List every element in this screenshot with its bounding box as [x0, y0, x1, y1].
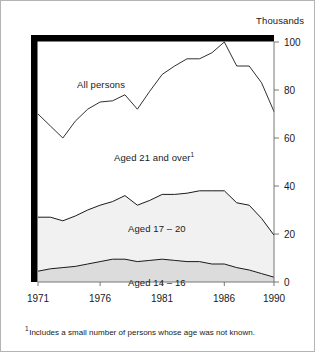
series-label-all-persons: All persons — [77, 79, 125, 90]
series-label-aged-17-20: Aged 17 – 20 — [128, 223, 186, 234]
x-tick-label-1971: 1971 — [18, 293, 58, 304]
figure-footnote: 1Includes a small number of persons whos… — [25, 328, 300, 337]
y-tick-label-40: 40 — [284, 181, 295, 192]
y-tick-label-100: 100 — [284, 37, 301, 48]
footnote-text: Includes a small number of persons whose… — [29, 328, 255, 337]
y-axis-unit-label: Thousands — [256, 15, 304, 26]
x-tick-label-1986: 1986 — [204, 293, 244, 304]
series-label-aged-14-16-text: Aged 14 – 16 — [128, 277, 186, 288]
y-tick-label-80: 80 — [284, 85, 295, 96]
y-tick-label-60: 60 — [284, 133, 295, 144]
x-tick-label-1976: 1976 — [80, 293, 120, 304]
footnote-marker-aged-21-over: 1 — [191, 151, 195, 158]
series-label-aged-14-16: Aged 14 – 16 — [128, 277, 186, 288]
series-label-aged-21-over: Aged 21 and over1 — [114, 152, 194, 163]
series-label-aged-17-20-text: Aged 17 – 20 — [128, 223, 186, 234]
y-tick-label-0: 0 — [284, 277, 290, 288]
x-tick-label-1981: 1981 — [142, 293, 182, 304]
series-label-all-persons-text: All persons — [77, 79, 125, 90]
chart-figure: Thousands 100 80 60 40 20 0 1971 1976 19… — [0, 0, 315, 352]
x-tick-label-1990: 1990 — [254, 293, 294, 304]
y-tick-label-20: 20 — [284, 229, 295, 240]
series-label-aged-21-over-text: Aged 21 and over — [114, 152, 191, 163]
